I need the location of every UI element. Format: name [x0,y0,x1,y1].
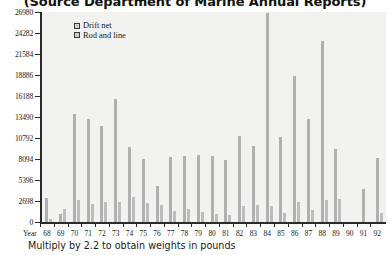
bar[interactable] [228,215,231,222]
x-axis-tick-label: 70 [68,222,82,236]
bar[interactable] [211,156,214,222]
bar-group[interactable] [262,12,276,222]
bar[interactable] [187,209,190,222]
bar-group[interactable] [180,12,194,222]
bar[interactable] [91,204,94,222]
y-axis-tick-label: 8094 [19,155,33,164]
bar[interactable] [169,157,172,222]
bar[interactable] [362,189,365,222]
bar[interactable] [242,206,245,222]
bar-group[interactable] [207,12,221,222]
bar[interactable] [311,210,314,222]
bar[interactable] [376,158,379,222]
bar[interactable] [160,205,163,222]
y-axis-tick-label: 26980 [15,8,33,17]
bar[interactable] [380,213,383,222]
bar-group[interactable] [125,12,139,222]
legend-item-rod-and-line[interactable]: Rod and line [74,31,126,41]
y-axis-tick [35,33,42,34]
bar[interactable] [256,205,259,222]
bar[interactable] [118,202,121,222]
x-axis-tick-label: 90 [343,222,357,236]
x-axis-tick-label: 69 [54,222,68,236]
x-axis-tick-label: 88 [315,222,329,236]
bar[interactable] [279,137,282,222]
x-axis-tick-label: 73 [109,222,123,236]
bar-group[interactable] [317,12,331,222]
y-axis-tick [35,138,42,139]
bar[interactable] [156,186,159,222]
bar[interactable] [201,212,204,222]
bar[interactable] [283,213,286,222]
bar-group[interactable] [276,12,290,222]
bar[interactable] [142,159,145,222]
bar[interactable] [45,198,48,222]
bar-group[interactable] [138,12,152,222]
bar[interactable] [252,146,255,222]
x-axis-tick [274,222,275,227]
bar-group[interactable] [304,12,318,222]
bar[interactable] [183,156,186,222]
bar[interactable] [270,206,273,222]
y-axis-tick [35,117,42,118]
bar-group[interactable] [290,12,304,222]
bar[interactable] [197,155,200,222]
x-axis-tick-label: 87 [302,222,316,236]
x-axis-tick-label: 77 [164,222,178,236]
bar[interactable] [114,99,117,222]
x-axis-tick [109,222,110,227]
bar-group[interactable] [359,12,373,222]
bar[interactable] [338,199,341,222]
bar-group[interactable] [97,12,111,222]
bar-group[interactable] [166,12,180,222]
bar[interactable] [238,136,241,222]
bar[interactable] [146,203,149,222]
bar[interactable] [128,147,131,223]
y-axis-tick-label: 0 [29,218,33,227]
bar-group[interactable] [56,12,70,222]
bar[interactable] [293,76,296,222]
bar-group[interactable] [235,12,249,222]
bar[interactable] [100,126,103,222]
bar-group[interactable] [372,12,386,222]
bar[interactable] [87,119,90,222]
x-axis-tick [164,222,165,227]
bar-group[interactable] [248,12,262,222]
x-axis-tick [81,222,82,227]
bar[interactable] [63,209,66,222]
bar[interactable] [173,211,176,222]
bar-group[interactable] [152,12,166,222]
bar-group[interactable] [83,12,97,222]
bar-group[interactable] [70,12,84,222]
legend-item-drift-net[interactable]: Drift net [74,21,126,31]
x-axis-tick [219,222,220,227]
bar[interactable] [73,114,76,222]
bar-group[interactable] [345,12,359,222]
bar[interactable] [321,41,324,222]
plot-area: 0269853968094107921349016188188862158424… [40,12,386,224]
x-axis-tick [178,222,179,227]
x-axis-tick-label: 74 [123,222,137,236]
bar[interactable] [334,149,337,222]
bar[interactable] [266,13,269,222]
bar[interactable] [307,119,310,222]
x-axis-tick-label: 75 [136,222,150,236]
bar-group[interactable] [193,12,207,222]
bar-group[interactable] [111,12,125,222]
bar[interactable] [132,197,135,222]
bar[interactable] [297,202,300,222]
bar[interactable] [104,202,107,222]
bar[interactable] [224,160,227,222]
bar[interactable] [59,214,62,222]
bar[interactable] [325,200,328,222]
x-axis: 6869707172737475767778798081828384858687… [40,222,384,236]
x-axis-tick [191,222,192,227]
bar-group[interactable] [42,12,56,222]
x-axis-tick-label: 71 [81,222,95,236]
bar-group[interactable] [331,12,345,222]
x-axis-tick-label: 82 [233,222,247,236]
bar-group[interactable] [221,12,235,222]
bar[interactable] [77,200,80,222]
bar[interactable] [215,214,218,222]
x-axis-tick-label: 91 [357,222,371,236]
